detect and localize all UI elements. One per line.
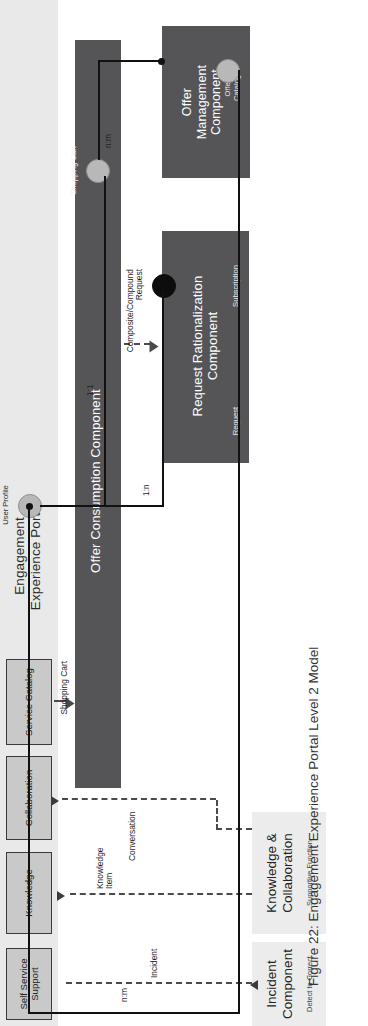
- edge-knowledge-item-label: Knowledge Item: [96, 813, 115, 889]
- edge-nm-bus-label: n:m: [120, 958, 129, 1002]
- edge-11-line: [104, 176, 106, 506]
- edge-knowledge-item-vertical: [70, 893, 252, 895]
- edge-1n-label: 1:n: [142, 456, 151, 496]
- edge-bus-left: [28, 1012, 240, 1014]
- edge-1n-line: [40, 505, 164, 507]
- interface-subscription[interactable]: [152, 274, 176, 298]
- interface-shopping-cart[interactable]: [86, 159, 110, 183]
- edge-shopping-cart-label: Shopping Cart: [60, 661, 69, 741]
- figure-caption: Figure 22: Engagement Experience Portal …: [306, 286, 321, 986]
- edge-bus-bottom: [238, 70, 240, 1014]
- edge-conversation-vertical-b: [62, 798, 216, 800]
- edge-nm-upper-line: [98, 60, 100, 160]
- edge-conversation-arrow-icon: [51, 796, 59, 806]
- incident-component-title: Incident Component: [264, 942, 296, 1026]
- interface-shopping-cart-label: Shopping Cart: [70, 123, 78, 218]
- edge-conversation-label: Conversation: [128, 771, 137, 861]
- edge-incident-arrow-icon: [250, 980, 258, 990]
- edge-nm-upper-label: n:m: [104, 104, 113, 148]
- edge-bus-top: [28, 506, 30, 1014]
- edge-1n-branch: [162, 291, 164, 507]
- interface-offer-catalog[interactable]: [216, 59, 240, 83]
- request-rationalization-component-label: Request Rationalization Component: [190, 256, 220, 436]
- edge-incident-vertical: [66, 982, 252, 984]
- diagram-canvas: Self Service Support Knowledge Collabora…: [0, 0, 330, 1026]
- edge-composite-request-label: Composite/Compound Request: [126, 269, 145, 419]
- edge-conversation-horizontal: [216, 800, 218, 830]
- edge-11-label: 1:1: [86, 356, 95, 396]
- edge-nm-upper-vertical: [98, 60, 164, 62]
- edge-nm-upper-endpoint-dot: [158, 58, 165, 65]
- edge-conversation-vertical-a: [216, 828, 252, 830]
- edge-knowledge-item-arrow-icon: [57, 891, 65, 901]
- edge-incident-label: Incident: [150, 908, 159, 978]
- offer-management-component-label: Offer Management Component: [180, 36, 224, 168]
- knowledge-collaboration-title: Knowledge & Collaboration: [264, 812, 296, 934]
- interface-user-profile-label: User Profile: [2, 470, 10, 540]
- edge-composite-request-arrow-icon: [150, 341, 159, 353]
- figure-root: Self Service Support Knowledge Collabora…: [0, 0, 368, 1026]
